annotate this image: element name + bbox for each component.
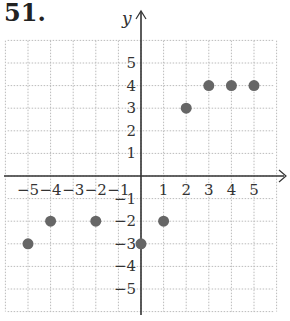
y-tick-label: −4 — [114, 257, 136, 275]
x-tick-label: 1 — [159, 181, 169, 199]
x-tick-label: −4 — [40, 181, 62, 199]
coordinate-plane: y−5−4−3−2−112345−5−4−3−2−112345 — [0, 0, 290, 321]
x-tick-label: −3 — [62, 181, 84, 199]
y-axis-label: y — [121, 8, 132, 28]
y-tick-label: −2 — [114, 212, 136, 230]
data-point — [45, 216, 56, 227]
x-tick-label: −2 — [85, 181, 107, 199]
y-tick-label: 1 — [126, 144, 136, 162]
x-tick-label: −5 — [17, 181, 39, 199]
y-tick-label: −1 — [114, 190, 136, 208]
y-tick-label: −3 — [114, 235, 136, 253]
data-point — [203, 80, 214, 91]
data-point — [181, 103, 192, 114]
x-tick-label: 5 — [249, 181, 259, 199]
y-tick-label: 4 — [126, 77, 136, 95]
x-tick-label: 4 — [227, 181, 237, 199]
data-point — [136, 238, 147, 249]
data-point — [226, 80, 237, 91]
x-tick-label: 2 — [181, 181, 191, 199]
x-tick-label: 3 — [204, 181, 214, 199]
data-point — [23, 238, 34, 249]
y-tick-label: −5 — [114, 280, 136, 298]
y-tick-label: 5 — [126, 54, 136, 72]
data-point — [90, 216, 101, 227]
data-point — [249, 80, 260, 91]
data-point — [158, 216, 169, 227]
y-tick-label: 3 — [126, 99, 136, 117]
y-tick-label: 2 — [126, 122, 136, 140]
